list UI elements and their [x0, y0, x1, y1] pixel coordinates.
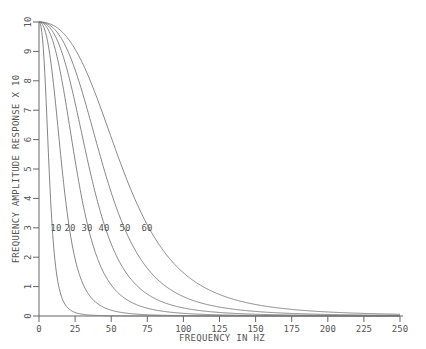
y-tick-label: 7 [23, 107, 33, 112]
x-axis-label: FREQUENCY IN HZ [179, 333, 265, 343]
curve-60 [39, 22, 400, 314]
curves [39, 22, 400, 316]
curve-label-60: 60 [142, 223, 153, 233]
y-tick-label: 10 [23, 17, 33, 28]
curve-labels: 102030405060 [51, 223, 153, 233]
y-tick-label: 8 [23, 78, 33, 83]
y-tick-label: 4 [23, 196, 33, 201]
y-tick-label: 1 [23, 284, 33, 289]
x-tick-label: 250 [392, 324, 408, 334]
y-tick-label: 2 [23, 254, 33, 259]
frequency-response-chart: 0255075100125150175200225250012345678910… [0, 0, 426, 349]
y-tick-label: 5 [23, 166, 33, 171]
curve-10 [39, 22, 400, 316]
x-tick-label: 75 [142, 324, 153, 334]
x-tick-label: 175 [284, 324, 300, 334]
curve-40 [39, 22, 400, 316]
curve-label-50: 50 [120, 223, 131, 233]
curve-label-30: 30 [82, 223, 93, 233]
y-axis-label: FREQUENCY AMPLITUDE RESPONSE X 10 [11, 75, 21, 264]
y-tick-label: 0 [23, 313, 33, 318]
y-tick-label: 3 [23, 225, 33, 230]
curve-label-20: 20 [65, 223, 76, 233]
curve-50 [39, 22, 400, 315]
curve-label-40: 40 [99, 223, 110, 233]
curve-20 [39, 22, 400, 316]
curve-label-10: 10 [51, 223, 62, 233]
x-tick-label: 225 [356, 324, 372, 334]
x-tick-label: 25 [70, 324, 81, 334]
curve-30 [39, 22, 400, 316]
x-tick-label: 0 [36, 324, 41, 334]
axes: 0255075100125150175200225250012345678910 [23, 17, 408, 334]
x-tick-label: 200 [320, 324, 336, 334]
x-tick-label: 50 [106, 324, 117, 334]
y-tick-label: 9 [23, 49, 33, 54]
y-tick-label: 6 [23, 137, 33, 142]
